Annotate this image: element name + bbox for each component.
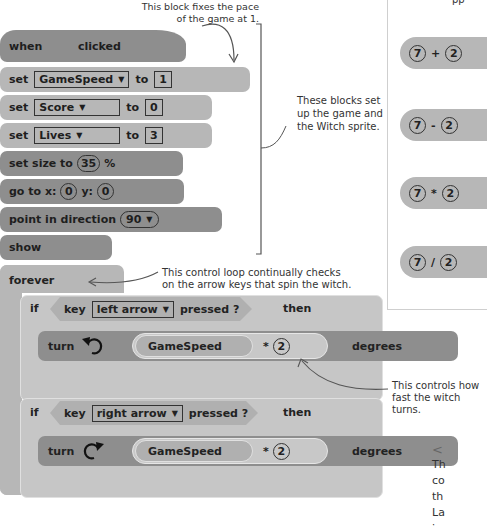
loop-note: This control loop continually checks on …: [162, 267, 351, 291]
key-dropdown[interactable]: left arrow: [92, 301, 174, 318]
panel-title-fragment: pp: [452, 0, 465, 6]
speed-note: This controls how fast the witch turns.: [392, 380, 487, 416]
when-flag-clicked-block[interactable]: when clicked: [0, 30, 186, 62]
factor-input[interactable]: 2: [273, 338, 290, 355]
value-input[interactable]: 3: [145, 127, 163, 144]
multiply-operator[interactable]: GameSpeed * 2: [132, 438, 328, 464]
variable-dropdown[interactable]: Score: [34, 99, 120, 116]
value-input[interactable]: 0: [145, 99, 163, 116]
variable-dropdown[interactable]: GameSpeed: [34, 71, 129, 88]
x-input[interactable]: 0: [60, 183, 77, 200]
setup-note: These blocks set up the game and the Wit…: [297, 94, 383, 133]
forever-label: forever: [9, 274, 54, 287]
set-score-block[interactable]: set Score to 0: [0, 95, 212, 120]
side-caption: < Th co th La in sp: [432, 443, 446, 526]
variable-dropdown[interactable]: Lives: [34, 127, 120, 144]
factor-input[interactable]: 2: [273, 443, 290, 460]
loop-arrow-pointer: [86, 268, 162, 288]
y-input[interactable]: 0: [97, 183, 114, 200]
size-input[interactable]: 35: [77, 155, 100, 172]
gamespeed-reporter[interactable]: GameSpeed: [135, 440, 253, 462]
divide-operator-block[interactable]: 7 / 2: [400, 246, 487, 278]
direction-dropdown[interactable]: 90: [120, 211, 158, 228]
pace-arrow-icon: [200, 18, 240, 66]
set-lives-block[interactable]: set Lives to 3: [0, 123, 212, 148]
set-size-block[interactable]: set size to 35 %: [0, 151, 183, 176]
key-dropdown[interactable]: right arrow: [92, 405, 183, 422]
show-block[interactable]: show: [0, 235, 112, 260]
key-right-pressed-predicate[interactable]: key right arrow pressed ?: [50, 401, 258, 425]
forever-arm: [0, 265, 22, 495]
setup-bracket: [250, 20, 290, 260]
speed-arrow-pointer: [292, 355, 392, 395]
set-gamespeed-block[interactable]: set GameSpeed to 1: [0, 67, 250, 92]
subtract-operator-block[interactable]: 7 - 2: [400, 109, 487, 141]
rotate-right-icon: [80, 440, 106, 462]
point-in-direction-block[interactable]: point in direction 90: [0, 207, 222, 232]
value-input[interactable]: 1: [154, 71, 172, 88]
rotate-left-icon: [80, 335, 106, 357]
gamespeed-reporter[interactable]: GameSpeed: [135, 335, 253, 357]
go-to-xy-block[interactable]: go to x: 0 y: 0: [0, 179, 184, 204]
multiply-operator-block[interactable]: 7 * 2: [400, 177, 487, 209]
pace-note: This block fixes the pace of the game at…: [134, 1, 259, 25]
add-operator-block[interactable]: 7 + 2: [400, 37, 487, 69]
key-left-pressed-predicate[interactable]: key left arrow pressed ?: [50, 297, 252, 321]
